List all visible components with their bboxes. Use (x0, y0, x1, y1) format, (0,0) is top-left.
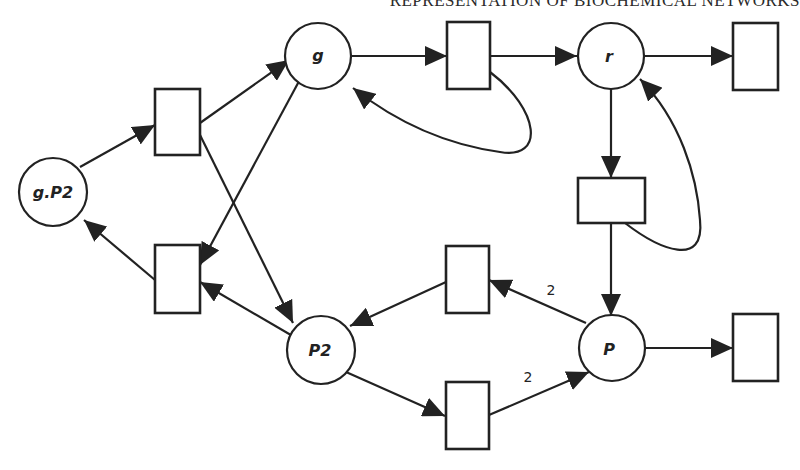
transition-P-decay[interactable] (733, 314, 778, 381)
place-label-P: P (603, 340, 615, 359)
transition-dimerize[interactable] (446, 246, 489, 313)
petri-net-diagram: 2 2 g r g.P2 P2 P (0, 0, 800, 470)
transition-dissociate[interactable] (446, 382, 489, 449)
arc-bind-to-P2 (200, 135, 293, 323)
place-gP2[interactable]: g.P2 (19, 158, 87, 226)
place-label-P2: P2 (309, 341, 332, 360)
arc-unbind-to-gP2 (84, 220, 155, 280)
transitions (155, 22, 778, 449)
place-P2[interactable]: P2 (287, 316, 355, 384)
transition-transcription[interactable] (447, 22, 490, 89)
arc-bind-to-g (200, 60, 289, 123)
transition-r-decay[interactable] (733, 23, 778, 90)
arc-dissociate-to-P (489, 372, 589, 415)
arc-weight-P-to-dimerize: 2 (547, 282, 556, 298)
arc-transcription-to-g-loop (353, 72, 531, 153)
place-label-g: g (312, 46, 323, 65)
place-label-gP2: g.P2 (33, 183, 73, 202)
arc-gP2-to-bind (80, 125, 155, 167)
place-label-r: r (605, 47, 614, 66)
transition-bind[interactable] (155, 89, 200, 155)
place-g[interactable]: g (285, 23, 351, 89)
arc-dimerize-to-P2 (350, 282, 446, 326)
arc-P2-to-unbind (200, 282, 296, 338)
transition-translation[interactable] (578, 178, 645, 223)
arc-P-to-dimerize (489, 280, 586, 323)
arc-P2-to-dissociate (346, 372, 445, 416)
place-r[interactable]: r (578, 23, 644, 89)
place-P[interactable]: P (579, 315, 645, 381)
transition-unbind[interactable] (155, 245, 200, 313)
arc-weight-dissociate-to-P: 2 (524, 369, 533, 385)
